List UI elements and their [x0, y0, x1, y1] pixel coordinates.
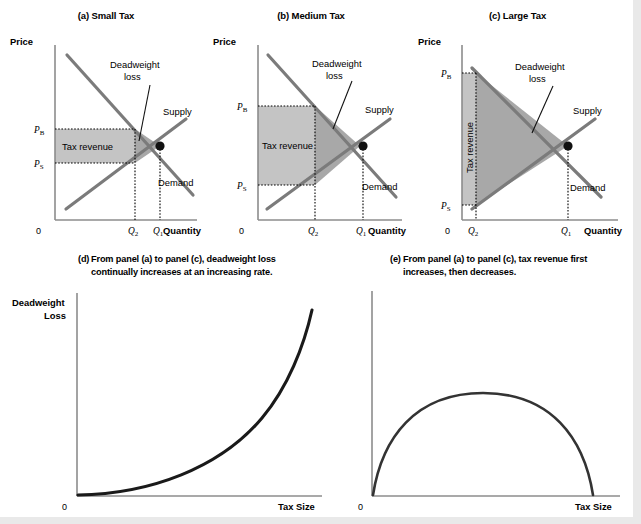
panel-d-chart-container: Deadweight Loss 0 Tax Size — [0, 288, 330, 517]
panel-e-origin-label: 0 — [358, 502, 363, 512]
panel-b-deadweight-label-line2: loss — [326, 70, 343, 81]
panel-c-supply-label: Supply — [573, 105, 602, 116]
panel-b-origin-label: 0 — [239, 226, 244, 236]
panel-a-chart: Price Quantity 0 PB PS Q2 Q1 Supply Dema… — [0, 23, 212, 238]
panel-a-q2-tick: Q2 — [128, 226, 139, 238]
panel-d-caption-marker: (d) — [78, 253, 91, 266]
panel-b-deadweight-leader-line — [333, 81, 352, 129]
panel-a-deadweight-leader-line — [139, 85, 150, 141]
panel-a-y-axis-label: Price — [10, 36, 33, 47]
panel-a-title: (a) Small Tax — [0, 10, 212, 21]
panel-a-deadweight-label-line2: loss — [124, 71, 141, 82]
panel-b-medium-tax: (b) Medium Tax Price Quantity 0 PB PS Q2… — [205, 10, 417, 240]
panel-c-demand-label: Demand — [570, 182, 605, 193]
panel-a-x-axis-label: Quantity — [163, 225, 202, 236]
panel-a-equilibrium-point — [155, 141, 164, 150]
panel-c-tax-revenue-label: Tax revenue — [464, 122, 475, 173]
panel-a-origin-label: 0 — [36, 226, 41, 236]
panel-e-x-axis-label: Tax Size — [575, 501, 612, 512]
panel-b-supply-label: Supply — [365, 104, 394, 115]
panel-d-caption-line1: From panel (a) to panel (c), deadweight … — [91, 254, 276, 264]
panel-c-origin-label: 0 — [445, 226, 450, 236]
panel-c-ps-tick: PS — [440, 201, 451, 213]
panel-a-supply-label: Supply — [163, 106, 192, 117]
panel-c-equilibrium-point — [563, 141, 572, 150]
panel-d-origin-label: 0 — [62, 502, 67, 512]
panel-e-caption-line1: From panel (a) to panel (c), tax revenue — [403, 254, 568, 264]
panel-c-deadweight-label-line2: loss — [529, 73, 546, 84]
panel-c-y-axis-label: Price — [418, 36, 441, 47]
panel-c-title: (c) Large Tax — [410, 10, 625, 21]
panel-e-caption: (e)From panel (a) to panel (c), tax reve… — [390, 253, 615, 278]
panel-c-q2-tick: Q2 — [468, 226, 479, 238]
figure-container: (a) Small Tax Price Quantity 0 — [0, 0, 633, 517]
panel-a-deadweight-label-line1: Deadweight — [110, 59, 160, 70]
panel-a-small-tax: (a) Small Tax Price Quantity 0 — [0, 10, 212, 240]
panel-b-deadweight-label-line1: Deadweight — [312, 58, 362, 69]
panel-e-caption-marker: (e) — [390, 253, 403, 266]
panel-b-equilibrium-point — [358, 141, 367, 150]
panel-b-x-axis-label: Quantity — [368, 225, 407, 236]
panel-d-x-axis-label: Tax Size — [278, 501, 315, 512]
panel-c-large-tax: (c) Large Tax Price Quantity 0 PB PS Q2 … — [410, 10, 633, 240]
panel-e-chart: 0 Tax Size — [320, 288, 633, 517]
panel-d-y-axis-label-line2: Loss — [44, 310, 66, 321]
panel-c-deadweight-label-line1: Deadweight — [515, 61, 565, 72]
panel-b-ps-tick: PS — [236, 181, 247, 193]
panel-b-demand-label: Demand — [362, 181, 397, 192]
panel-d-chart: Deadweight Loss 0 Tax Size — [0, 288, 330, 517]
panel-b-title: (b) Medium Tax — [205, 10, 417, 21]
panel-b-q1-tick: Q1 — [356, 226, 367, 238]
panel-b-chart: Price Quantity 0 PB PS Q2 Q1 Supply Dema… — [205, 23, 417, 238]
panel-c-q1-tick: Q1 — [561, 226, 572, 238]
panel-d-y-axis-label-line1: Deadweight — [12, 297, 65, 308]
panel-d-caption: (d)From panel (a) to panel (c), deadweig… — [78, 253, 308, 278]
panel-b-tax-revenue-label: Tax revenue — [262, 140, 313, 151]
panel-a-tax-revenue-label: Tax revenue — [62, 141, 113, 152]
panel-e-chart-container: 0 Tax Size — [320, 288, 633, 517]
panel-b-y-axis-label: Price — [213, 36, 236, 47]
panel-b-pb-tick: PB — [236, 102, 248, 114]
panel-c-chart: Price Quantity 0 PB PS Q2 Q1 Supply Dema… — [410, 23, 633, 238]
panel-e-tax-revenue-curve — [373, 393, 593, 495]
panel-d-caption-line2: continually increases at an increasing r… — [91, 267, 272, 277]
panel-a-ps-tick: PS — [33, 159, 44, 171]
panel-a-pb-tick: PB — [33, 125, 45, 137]
panel-c-deadweight-loss-region — [476, 73, 568, 205]
panel-d-deadweight-loss-curve — [78, 310, 312, 495]
panel-a-demand-label: Demand — [158, 177, 193, 188]
panel-b-q2-tick: Q2 — [308, 226, 319, 238]
panel-c-pb-tick: PB — [440, 69, 452, 81]
panel-c-x-axis-label: Quantity — [584, 225, 623, 236]
